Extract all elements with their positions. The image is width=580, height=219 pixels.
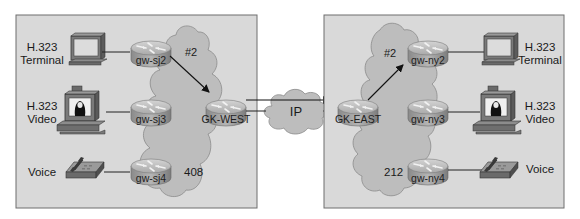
gk-west-label: GK-WEST [202, 113, 252, 125]
west-terminal-label-1: H.323 [27, 41, 58, 53]
ip-cloud-label: IP [290, 104, 302, 119]
east-route-label: #2 [384, 47, 396, 59]
network-diagram: H.323 Terminal H.323 Video Voice gw-sj2 … [0, 0, 580, 219]
west-route-label: #2 [185, 46, 197, 58]
gw-sj2-label: gw-sj2 [136, 54, 167, 66]
east-terminal-icon [482, 33, 520, 65]
east-terminal-label-1: H.323 [525, 41, 556, 53]
east-video-label-1: H.323 [525, 100, 556, 112]
west-video-label-1: H.323 [27, 100, 58, 112]
gw-ny2-label: gw-ny2 [411, 54, 445, 66]
gw-sj4-label: gw-sj4 [136, 172, 167, 184]
east-zone: GK-EAST #2 gw-ny2 gw-ny3 gw-ny4 212 H.32… [324, 15, 564, 208]
east-terminal-label-2: Terminal [518, 54, 561, 66]
gk-east-label: GK-EAST [335, 113, 382, 125]
west-terminal-label-2: Terminal [20, 54, 63, 66]
wan: IP [246, 89, 336, 134]
west-terminal-icon [69, 33, 107, 65]
east-area-code-label: 212 [384, 166, 403, 178]
west-area-code-label: 408 [184, 166, 203, 178]
east-voice-label: Voice [526, 163, 554, 175]
east-video-label-2: Video [525, 113, 554, 125]
west-voice-label: Voice [28, 166, 56, 178]
west-video-label-2: Video [27, 113, 56, 125]
west-zone: H.323 Terminal H.323 Video Voice gw-sj2 … [16, 15, 257, 208]
gw-ny4-label: gw-ny4 [411, 172, 445, 184]
gw-sj3-label: gw-sj3 [136, 113, 167, 125]
gw-ny3-label: gw-ny3 [411, 113, 445, 125]
